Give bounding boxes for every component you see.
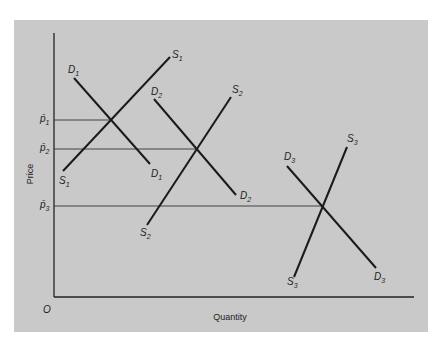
- supply-demand-diagram: S1 S1 D1 D1 S2 S2 D2 D2 S3 S3 D3 D3 p̄1 …: [0, 0, 444, 347]
- price-label-p1: p̄1: [39, 113, 50, 126]
- label-s2-top: S2: [232, 84, 243, 97]
- label-d2-bottom: D2: [240, 190, 251, 203]
- label-d1-bottom: D1: [151, 168, 162, 181]
- price-label-p2: p̄2: [39, 142, 50, 155]
- x-axis-label: Quantity: [213, 312, 247, 322]
- label-s1-bottom: S1: [59, 175, 70, 188]
- demand-curve-d2: [154, 99, 236, 195]
- label-s1-top: S1: [172, 49, 183, 62]
- demand-curve-d3: [287, 166, 376, 268]
- price-label-p3: p̄3: [39, 199, 50, 212]
- label-d2-top: D2: [151, 86, 162, 99]
- label-s3-top: S3: [347, 133, 358, 146]
- label-s2-bottom: S2: [140, 227, 151, 240]
- label-d1-top: D1: [68, 64, 79, 77]
- y-axis-label: Price: [25, 164, 35, 185]
- label-d3-bottom: D3: [374, 271, 385, 284]
- label-s3-bottom: S3: [287, 276, 298, 289]
- supply-curve-s3: [294, 147, 347, 277]
- origin-label: O: [43, 304, 51, 315]
- label-d3-top: D3: [284, 151, 295, 164]
